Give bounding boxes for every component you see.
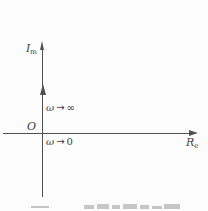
caption-fragment [152, 206, 162, 209]
caption-fragment [84, 205, 94, 209]
nyquist-plot-figure: Im O Re ω → ∞ ω → 0 [0, 0, 208, 211]
cropped-caption-fragments [0, 0, 208, 211]
caption-fragment [123, 204, 137, 209]
caption-fragment [97, 204, 109, 209]
caption-fragment [164, 204, 180, 209]
caption-fragment [140, 205, 149, 209]
caption-fragment [31, 206, 49, 208]
caption-fragment [112, 205, 120, 209]
